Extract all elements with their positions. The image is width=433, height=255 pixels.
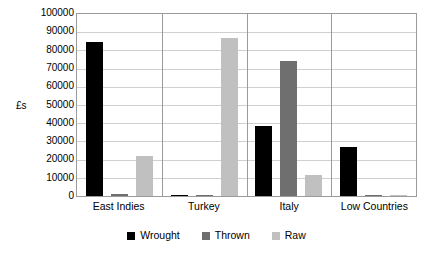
bar[interactable] (305, 175, 322, 196)
plot-area (76, 13, 417, 197)
bar[interactable] (340, 147, 357, 196)
bar-chart: £s 1000009000080000700006000050000400003… (0, 0, 433, 255)
y-axis-tick: 80000 (46, 45, 74, 55)
x-axis-category-label: Turkey (161, 200, 246, 213)
y-axis-tick: 40000 (46, 118, 74, 128)
y-axis-tick: 60000 (46, 81, 74, 91)
x-axis-category-label: Low Countries (332, 200, 417, 213)
legend-item[interactable]: Thrown (202, 230, 250, 241)
bar[interactable] (390, 195, 407, 197)
bar-slot (255, 14, 272, 196)
bar-slot (136, 14, 153, 196)
bar-slot (305, 14, 322, 196)
legend: WroughtThrownRaw (0, 230, 433, 241)
legend-item[interactable]: Raw (272, 230, 306, 241)
bar[interactable] (111, 194, 128, 196)
bar-slot (365, 14, 382, 196)
bar-slot (171, 14, 188, 196)
bar-slot (221, 14, 238, 196)
bar[interactable] (171, 195, 188, 197)
bar[interactable] (255, 126, 272, 196)
y-axis-tick: 20000 (46, 154, 74, 164)
x-axis-category-labels: East IndiesTurkeyItalyLow Countries (76, 200, 417, 213)
x-axis-category-label: East Indies (76, 200, 161, 213)
legend-item[interactable]: Wrought (127, 230, 180, 241)
legend-swatch-icon (127, 232, 135, 240)
bar[interactable] (86, 42, 103, 196)
bar-slot (340, 14, 357, 196)
bar-slot (86, 14, 103, 196)
bar-slot (390, 14, 407, 196)
legend-swatch-icon (202, 232, 210, 240)
bar-group (247, 14, 332, 196)
legend-label: Thrown (215, 230, 250, 241)
bar[interactable] (136, 156, 153, 196)
y-axis-tick: 70000 (46, 63, 74, 73)
legend-label: Wrought (140, 230, 180, 241)
y-axis-tick: 100000 (41, 8, 74, 18)
bar-slot (280, 14, 297, 196)
y-axis-tick: 30000 (46, 136, 74, 146)
x-axis-category-label: Italy (247, 200, 332, 213)
bar-group (331, 14, 416, 196)
bar[interactable] (365, 195, 382, 197)
legend-label: Raw (285, 230, 306, 241)
y-axis-tick: 0 (68, 191, 74, 201)
bar[interactable] (280, 61, 297, 196)
y-axis-title: £s (16, 100, 27, 111)
bar[interactable] (221, 38, 238, 196)
y-axis-tick: 90000 (46, 26, 74, 36)
bar-group (77, 14, 162, 196)
bar-slot (196, 14, 213, 196)
bar-slot (111, 14, 128, 196)
legend-swatch-icon (272, 232, 280, 240)
y-axis-tick: 10000 (46, 173, 74, 183)
y-axis-tick-labels: 1000009000080000700006000050000400003000… (34, 13, 74, 197)
bar-groups (77, 14, 416, 196)
y-axis-tick: 50000 (46, 100, 74, 110)
bar-group (162, 14, 247, 196)
bar[interactable] (196, 195, 213, 196)
